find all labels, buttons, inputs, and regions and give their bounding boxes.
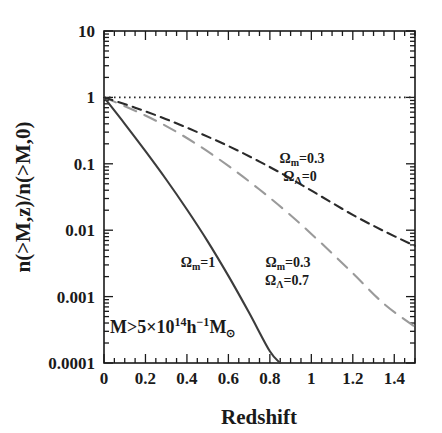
annotation-lambda-line1: Ωm=0.3 [265, 255, 310, 272]
y-tick-label: 0.1 [74, 155, 95, 174]
cluster-abundance-chart: 00.20.40.60.811.21.4 1010.10.010.0010.00… [0, 0, 442, 433]
x-tick-label: 0 [100, 369, 109, 388]
annotation-open-line1: Ωm=0.3 [279, 151, 324, 168]
x-tick-label: 1 [307, 369, 316, 388]
x-tick-label: 0.4 [176, 369, 198, 388]
annotation-lambda-model: Ωm=0.3 ΩΛ=0.7 [265, 255, 310, 290]
y-tick-label: 0.01 [65, 221, 95, 240]
x-tick-label: 1.4 [384, 369, 406, 388]
y-axis-title: n(>M,z)/n(>M,0) [11, 121, 35, 272]
y-tick-label: 1 [87, 88, 96, 107]
figure-container: 00.20.40.60.811.21.4 1010.10.010.0010.00… [0, 0, 442, 433]
y-tick-label: 10 [78, 22, 95, 41]
x-axis-title: Redshift [221, 405, 297, 429]
x-tick-label: 0.6 [218, 369, 239, 388]
mass-threshold-annotation: M>5×1014h−1M⊙ [110, 315, 235, 339]
x-tick-label: 1.2 [342, 369, 363, 388]
y-tick-label: 0.001 [57, 288, 95, 307]
x-tick-label: 0.2 [135, 369, 156, 388]
annotation-lambda-line2: ΩΛ=0.7 [265, 273, 309, 290]
x-tick-label: 0.8 [259, 369, 280, 388]
y-tick-label: 0.0001 [48, 354, 95, 373]
